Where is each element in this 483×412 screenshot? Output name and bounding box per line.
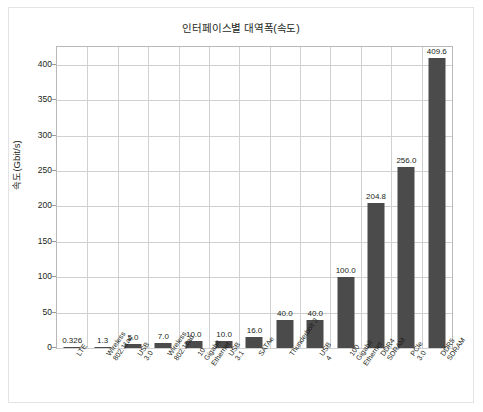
y-tick-label: 350: [18, 94, 52, 104]
y-tick-label: 300: [18, 130, 52, 140]
bar-value-label: 1.3: [97, 336, 108, 345]
x-axis-labels: LTEWireless 802.11acUSB 3.0Wireless 802.…: [56, 351, 453, 411]
y-tick-label: 0: [18, 342, 52, 352]
y-tick-label: 150: [18, 236, 52, 246]
y-tick-label: 400: [18, 59, 52, 69]
bar-value-label: 204.8: [366, 192, 386, 201]
bar-slot: 0.326: [57, 47, 87, 348]
bar-value-label: 100.0: [336, 266, 356, 275]
y-tick-label: 250: [18, 165, 52, 175]
bar-value-label: 256.0: [396, 156, 416, 165]
y-tick-label: 50: [18, 307, 52, 317]
y-tick-label: 200: [18, 200, 52, 210]
y-tick-label: 100: [18, 271, 52, 281]
chart-title: 인터페이스별 대역폭(속도): [9, 20, 473, 35]
bar-value-label: 409.6: [427, 47, 447, 56]
chart-container: 인터페이스별 대역폭(속도) 속도(Gbit/s) 05010015020025…: [8, 7, 474, 403]
y-axis-ticks: 050100150200250300350400: [13, 46, 52, 349]
